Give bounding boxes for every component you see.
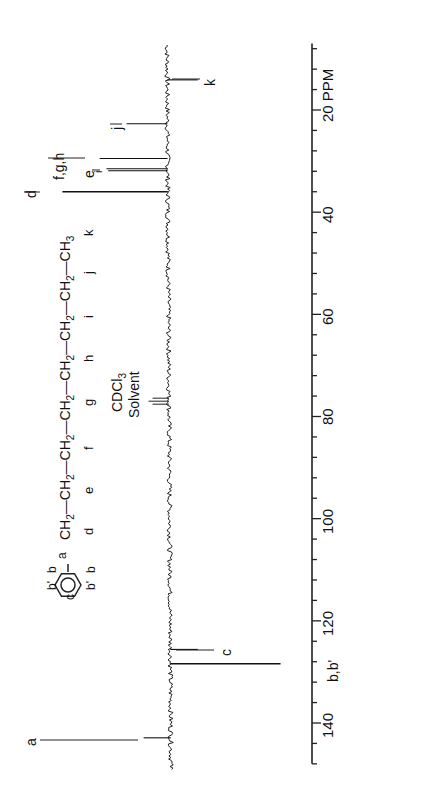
chain-j: CH2 [57, 275, 73, 301]
chain-g: CH2 [57, 395, 73, 421]
chain-h: CH2 [57, 355, 73, 381]
chain-letter-h: h [82, 355, 95, 362]
solvent-label-line2: Solvent [127, 371, 141, 418]
chain-i: CH2 [57, 315, 73, 341]
tick-label-60: 60 [320, 308, 335, 325]
chain-d: CH2 [57, 514, 73, 540]
peak-label-j: j [110, 127, 124, 130]
peak-label-c: c [219, 649, 233, 656]
chain-k: CH3 [57, 236, 73, 262]
chain-letter-j: j [82, 271, 95, 274]
chain-letter-g: g [82, 399, 95, 406]
tick-label-140: 140 [320, 713, 335, 738]
peak-label-bb: b,b' [326, 660, 340, 682]
chain-letter-d: d [82, 528, 95, 535]
tick-label-80: 80 [320, 408, 335, 425]
chain-letter-k: k [82, 230, 95, 237]
ring-label-bp-top: b' [46, 581, 58, 590]
tick-label-120: 120 [320, 611, 335, 636]
peak-label-d: d [24, 190, 38, 198]
peak-label-k: k [203, 79, 217, 86]
ring-label-bp-bot: b' [85, 581, 97, 590]
ring-label-b-bot: b [85, 566, 97, 573]
peak-label-a: a [24, 738, 38, 746]
peak-label-i: i [93, 171, 104, 173]
tick-label-40: 40 [320, 206, 335, 223]
chain-f: CH2 [57, 435, 73, 461]
chain-letter-i: i [82, 315, 95, 318]
chain-e: CH2 [57, 474, 73, 500]
ring-label-c: c [64, 594, 76, 600]
chain-letter-e: e [82, 487, 95, 494]
ring-label-b-top: b [46, 566, 58, 573]
peak-label-fgh: f,g,h [52, 153, 66, 180]
tick-label-20: 20 PPM [320, 69, 335, 122]
structure-chain: CH2—CH2—CH2—CH2—CH2—CH2—CH2—CH3 [58, 236, 76, 540]
chain-letter-f: f [82, 446, 95, 450]
ppm-axis [312, 44, 321, 764]
tick-label-100: 100 [320, 509, 335, 534]
ring-label-a: a [56, 552, 68, 559]
spectrum-trace [165, 45, 173, 770]
